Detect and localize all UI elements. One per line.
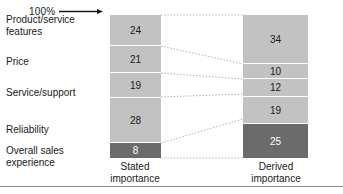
segment-stated-overall-sales-experience[interactable]: 8: [110, 143, 161, 158]
category-label-overall-sales-experience: Overall sales experience: [6, 145, 64, 168]
category-label-price: Price: [6, 56, 29, 68]
segment-derived-service-support[interactable]: 12: [243, 79, 308, 96]
column-caption-derived-importance: Derived importance: [238, 161, 314, 184]
segment-stated-product-service-features[interactable]: 24: [110, 15, 161, 45]
segment-derived-reliability[interactable]: 19: [243, 97, 308, 123]
segment-derived-overall-sales-experience[interactable]: 25: [243, 124, 308, 158]
segment-derived-product-service-features[interactable]: 34: [243, 15, 308, 63]
segment-stated-reliability[interactable]: 28: [110, 98, 161, 142]
category-label-product-service-features: Product/service features: [6, 14, 75, 37]
segment-stated-service-support[interactable]: 19: [110, 73, 161, 97]
column-caption-stated-importance: Stated importance: [104, 161, 166, 184]
category-label-list: Product/service features Price Service/s…: [6, 14, 110, 160]
stacked-bar-chart: 100% Product/service features Price Serv…: [0, 0, 343, 194]
category-label-service-support: Service/support: [6, 87, 75, 99]
segment-stated-price[interactable]: 21: [110, 46, 161, 72]
footer-divider: [0, 186, 343, 187]
segment-derived-price[interactable]: 10: [243, 64, 308, 78]
category-label-reliability: Reliability: [6, 124, 49, 136]
